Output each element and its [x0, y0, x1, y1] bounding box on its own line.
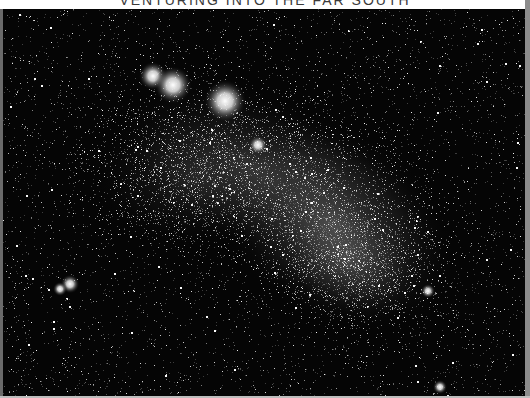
caption-heading: VENTURING INTO THE FAR SOUTH — [0, 0, 530, 9]
photo-frame: VENTURING INTO THE FAR SOUTH — [0, 0, 530, 398]
galaxy-photo — [3, 9, 525, 396]
right-border — [525, 0, 530, 398]
starfield-image — [3, 9, 525, 396]
